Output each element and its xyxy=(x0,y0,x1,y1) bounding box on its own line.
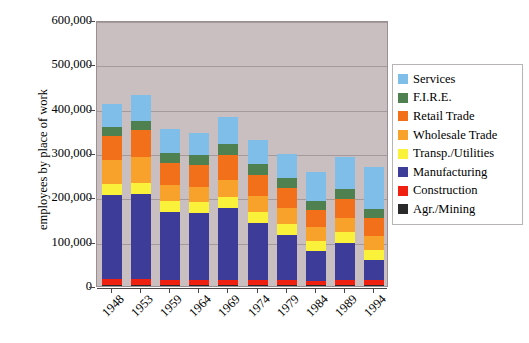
legend-item[interactable]: Wholesale Trade xyxy=(398,126,518,145)
x-axis-tick-mark xyxy=(227,288,228,293)
x-axis-tick-mark xyxy=(373,288,374,293)
chart-legend: ServicesF.I.R.E.Retail TradeWholesale Tr… xyxy=(392,64,523,225)
legend-item-label: Manufacturing xyxy=(413,166,487,179)
legend-swatch-icon xyxy=(398,186,408,196)
x-axis-tick-mark xyxy=(140,288,141,293)
legend-item-label: Agr./Mining xyxy=(413,203,475,216)
legend-item[interactable]: F.I.R.E. xyxy=(398,89,518,108)
legend-item-label: F.I.R.E. xyxy=(413,91,452,104)
legend-item-label: Services xyxy=(413,73,455,86)
legend-swatch-icon xyxy=(398,93,408,103)
x-axis-tick-mark xyxy=(315,288,316,293)
x-axis-tick-mark xyxy=(111,288,112,293)
x-axis-tick-mark xyxy=(257,288,258,293)
legend-item[interactable]: Transp./Utilities xyxy=(398,144,518,163)
x-axis-tick-mark xyxy=(344,288,345,293)
x-axis-tick-mark xyxy=(169,288,170,293)
legend-item[interactable]: Services xyxy=(398,70,518,89)
x-axis-tick-mark xyxy=(286,288,287,293)
legend-item-label: Construction xyxy=(413,184,478,197)
legend-swatch-icon xyxy=(398,74,408,84)
legend-item[interactable]: Retail Trade xyxy=(398,107,518,126)
legend-item[interactable]: Construction xyxy=(398,182,518,201)
legend-swatch-icon xyxy=(398,149,408,159)
x-axis-tick-mark xyxy=(198,288,199,293)
legend-item-label: Retail Trade xyxy=(413,110,474,123)
legend-swatch-icon xyxy=(398,130,408,140)
legend-swatch-icon xyxy=(398,111,408,121)
legend-item[interactable]: Manufacturing xyxy=(398,163,518,182)
legend-swatch-icon xyxy=(398,204,408,214)
legend-swatch-icon xyxy=(398,167,408,177)
legend-item[interactable]: Agr./Mining xyxy=(398,200,518,219)
legend-item-label: Transp./Utilities xyxy=(413,147,494,160)
stacked-bar-chart: employees by place of work 0100,000200,0… xyxy=(0,0,529,343)
legend-item-label: Wholesale Trade xyxy=(413,129,497,142)
